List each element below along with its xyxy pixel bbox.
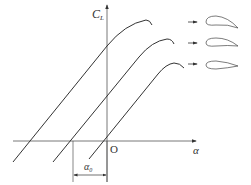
origin-label: O xyxy=(110,143,118,155)
x-axis-label: α xyxy=(193,144,199,156)
airfoil-medium-camber xyxy=(188,38,238,46)
y-axis-label: CL xyxy=(92,7,104,22)
curve-symmetric xyxy=(89,63,184,159)
airfoil-symmetric xyxy=(188,61,238,69)
airfoil-high-camber xyxy=(188,16,238,28)
zero-lift-angle-label: α0 xyxy=(84,161,92,173)
cl-alpha-diagram: CL O α α0 xyxy=(0,0,251,185)
zero-lift-angle-dimension xyxy=(73,141,107,182)
